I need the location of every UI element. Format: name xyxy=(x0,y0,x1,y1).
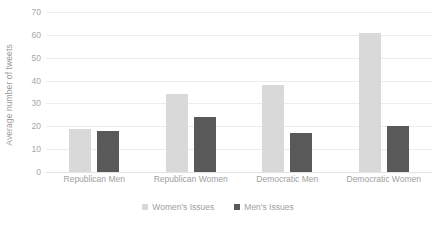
legend-label: Women's Issues xyxy=(152,202,214,212)
y-axis-tick-label: 10 xyxy=(32,144,41,154)
y-axis-tick-label: 30 xyxy=(32,98,41,108)
y-axis-tick-label: 50 xyxy=(32,53,41,63)
legend-item[interactable]: Women's Issues xyxy=(142,202,214,212)
bar[interactable] xyxy=(359,33,381,172)
legend-swatch-icon xyxy=(142,204,148,210)
chart-legend: Women's IssuesMen's Issues xyxy=(0,198,436,216)
bar-group xyxy=(143,12,240,172)
y-axis-tick-label: 70 xyxy=(32,7,41,17)
y-axis-title-text: Average number of tweets xyxy=(4,44,14,145)
bar[interactable] xyxy=(97,131,119,172)
bar[interactable] xyxy=(387,126,409,172)
legend-label: Men's Issues xyxy=(244,202,293,212)
bar[interactable] xyxy=(69,129,91,172)
x-axis-tick-label: Republican Men xyxy=(46,174,143,190)
bar[interactable] xyxy=(194,117,216,172)
plot-area xyxy=(46,12,432,172)
bar-chart: Average number of tweets 010203040506070… xyxy=(0,0,436,233)
axis-baseline xyxy=(46,172,432,173)
bar-group xyxy=(336,12,433,172)
y-axis-tick-label: 20 xyxy=(32,121,41,131)
y-axis-title: Average number of tweets xyxy=(0,0,18,190)
y-axis-tick-label: 0 xyxy=(36,167,41,177)
x-axis-tick-label: Republican Women xyxy=(143,174,240,190)
bar[interactable] xyxy=(166,94,188,172)
bar-group xyxy=(239,12,336,172)
y-axis-tick-label: 40 xyxy=(32,76,41,86)
bar[interactable] xyxy=(290,133,312,172)
legend-item[interactable]: Men's Issues xyxy=(234,202,293,212)
x-axis-tick-labels: Republican MenRepublican WomenDemocratic… xyxy=(46,174,432,190)
bar[interactable] xyxy=(262,85,284,172)
y-axis-tick-label: 60 xyxy=(32,30,41,40)
x-axis-tick-label: Democratic Women xyxy=(336,174,433,190)
x-axis-tick-label: Democratic Men xyxy=(239,174,336,190)
y-axis-tick-labels: 010203040506070 xyxy=(18,12,44,172)
legend-swatch-icon xyxy=(234,204,240,210)
bar-group xyxy=(46,12,143,172)
bars-layer xyxy=(46,12,432,172)
